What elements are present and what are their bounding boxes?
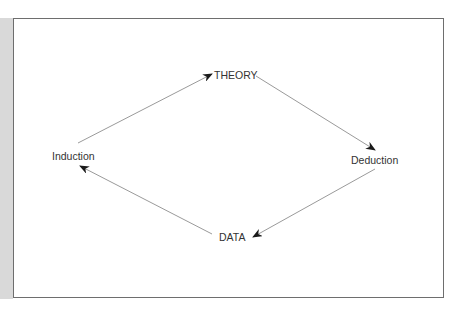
node-theory: THEORY: [214, 70, 258, 81]
node-induction: Induction: [52, 151, 95, 162]
arrow-deduction-to-data: [253, 169, 375, 237]
node-deduction: Deduction: [351, 155, 398, 166]
arrow-theory-to-deduction: [256, 76, 375, 150]
node-data: DATA: [219, 232, 245, 243]
arrow-data-to-induction: [80, 166, 212, 234]
arrow-induction-to-theory: [78, 74, 212, 143]
